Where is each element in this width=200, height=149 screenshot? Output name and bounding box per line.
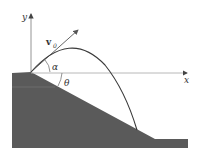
projectile-on-incline-diagram: y x v 0 α θ: [0, 0, 200, 149]
theta-angle-arc: [58, 73, 62, 86]
slope-angle-label: θ: [64, 78, 70, 88]
velocity-subscript: 0: [53, 42, 57, 49]
launch-angle-label: α: [52, 62, 58, 72]
x-axis-label: x: [184, 75, 189, 85]
incline-ground: [12, 72, 188, 148]
y-axis-label: y: [21, 12, 28, 22]
alpha-angle-arc: [45, 60, 50, 72]
velocity-label: v: [45, 37, 52, 47]
